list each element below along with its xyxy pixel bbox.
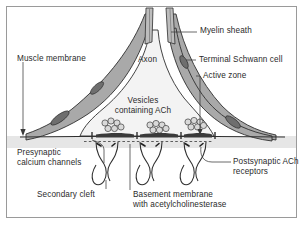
label-postsynaptic-line1: Postsynaptic ACh [233,157,299,166]
leader-muscle-membrane-arrow [20,129,25,136]
label-presynaptic-line1: Presynaptic [17,148,61,157]
label-vesicles-line2: containing ACh [105,106,181,115]
label-muscle-membrane: Muscle membrane [17,54,86,63]
axon-stalk-left [145,8,153,44]
neuromuscular-junction-figure: Myelin sheath Terminal Schwann cell Acti… [0,0,305,226]
label-secondary-cleft: Secondary cleft [37,190,95,199]
label-basement-line1: Basement membrane [133,190,213,199]
label-basement-line2: with acetylcholinesterase [133,200,227,209]
label-terminal-schwann-cell: Terminal Schwann cell [199,55,283,64]
label-active-zone: Active zone [203,71,246,80]
label-postsynaptic-line2: receptors [233,167,268,176]
label-vesicles-line1: Vesicles [112,96,174,105]
label-axon: Axon [138,55,157,64]
label-presynaptic-line2: calcium channels [17,158,81,167]
label-myelin-sheath: Myelin sheath [200,26,252,35]
